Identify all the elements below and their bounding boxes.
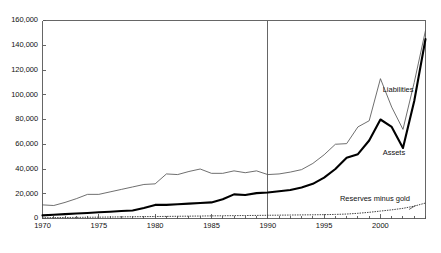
axis-frame [43,21,426,219]
y-tick-label: 40,000 [0,165,38,173]
x-tick-label: 1990 [248,222,288,230]
y-tick-label: 20,000 [0,190,38,198]
x-tick-label: 2000 [360,222,400,230]
y-tick-label: 140,000 [0,41,38,49]
y-tick-label: 160,000 [0,16,38,24]
y-tick-label: 100,000 [0,91,38,99]
series-line-liabilities [43,30,426,205]
series-line-assets [43,39,426,215]
tick-marks [43,21,426,219]
y-tick-label: 60,000 [0,140,38,148]
y-tick-label: 80,000 [0,115,38,123]
x-tick-label: 1980 [135,222,175,230]
reserves-label: Reserves minus gold [340,194,410,203]
x-tick-label: 1975 [79,222,119,230]
series-lines [43,30,426,217]
chart-canvas [0,0,441,253]
y-tick-label: 120,000 [0,66,38,74]
chart-figure: 020,00040,00060,00080,000100,000120,0001… [0,0,441,253]
liabilities-label: Liabilities [383,85,414,94]
x-tick-label: 1970 [23,222,63,230]
x-tick-label: 1995 [304,222,344,230]
x-tick-label: 1985 [191,222,231,230]
series-line-reserves-minus-gold [43,203,426,218]
assets-label: Assets [383,148,406,157]
